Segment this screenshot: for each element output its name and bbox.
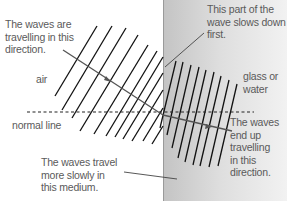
refraction-diagram: The waves are travelling in this directi… <box>0 0 287 201</box>
label-travel-slowly: The waves travel more slowly in this med… <box>41 156 117 194</box>
label-air: air <box>36 73 47 86</box>
leader-slows-first <box>165 33 204 67</box>
label-normal-line: normal line <box>12 119 61 132</box>
label-slows-first: This part of the wave slows down first. <box>207 3 286 41</box>
label-incident-direction: The waves are travelling in this directi… <box>5 18 74 56</box>
label-refracted-direction: The waves end up travelling in this dire… <box>230 116 279 179</box>
refracted-wavefronts <box>160 61 237 167</box>
leader-travel-slowly <box>124 172 177 179</box>
label-glass-or-water: glass or water <box>243 70 278 95</box>
